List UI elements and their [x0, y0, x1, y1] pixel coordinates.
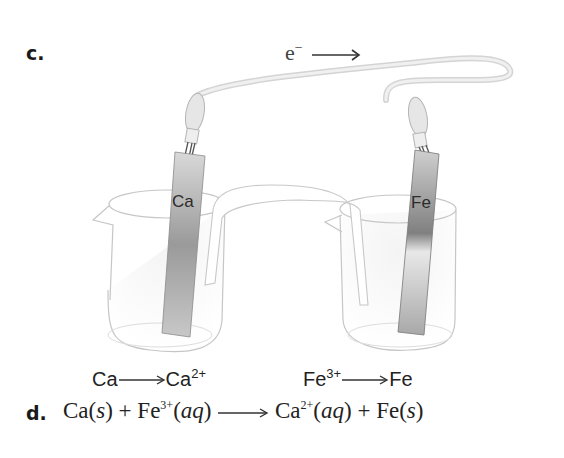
half-right-reactant: Fe [303, 368, 326, 390]
eq-state: s [407, 398, 416, 423]
half-right-product: Fe [389, 368, 412, 390]
half-reaction-oxidation: CaCa2+ [92, 366, 206, 391]
eq-fe-ion: Fe [137, 398, 160, 423]
half-left-reactant: Ca [92, 368, 118, 390]
half-right-charge: 3+ [326, 366, 341, 381]
overall-equation: Ca(s) + Fe3+(aq) Ca2+(aq) + Fe(s) [63, 398, 423, 424]
reaction-arrow-icon [217, 407, 269, 419]
left-beaker [93, 190, 225, 352]
right-beaker [325, 195, 456, 350]
reaction-arrow-icon [118, 374, 166, 386]
half-left-product: Ca [166, 368, 192, 390]
eq-ca: Ca [63, 398, 89, 423]
eq-plus: + [119, 398, 132, 423]
iron-electrode-label: Fe [411, 193, 431, 212]
half-reaction-reduction: Fe3+Fe [303, 366, 413, 391]
eq-charge: 3+ [160, 398, 173, 412]
eq-state: aq [321, 398, 344, 423]
eq-ca-ion: Ca [275, 398, 301, 423]
eq-state: s [96, 398, 105, 423]
eq-plus: + [357, 398, 370, 423]
eq-charge: 2+ [301, 398, 314, 412]
reaction-arrow-icon [341, 374, 389, 386]
eq-fe: Fe [376, 398, 399, 423]
calcium-electrode-label: Ca [172, 192, 194, 211]
galvanic-cell-diagram: Ca Fe [0, 0, 564, 458]
part-d-label: d. [26, 402, 47, 424]
eq-state: aq [181, 398, 204, 423]
half-left-charge: 2+ [191, 366, 206, 381]
left-alligator-clip [183, 92, 208, 162]
